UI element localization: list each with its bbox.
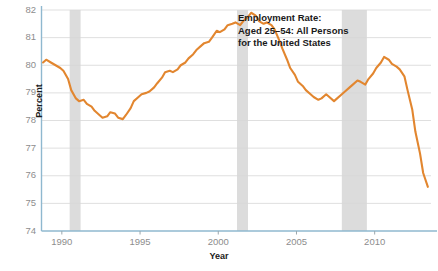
x-tick-label-1990: 1990	[42, 236, 82, 247]
y-tick-label-76: 76	[12, 169, 36, 180]
chart-title-line-2: Aged 25–54: All Persons	[238, 25, 349, 38]
y-tick-label-77: 77	[12, 142, 36, 153]
gridlines	[42, 10, 432, 203]
y-tick-label-79: 79	[12, 86, 36, 97]
chart-title-line-3: for the United States	[238, 37, 349, 50]
chart-title: Employment Rate: Aged 25–54: All Persons…	[238, 12, 349, 50]
y-tick-label-75: 75	[12, 197, 36, 208]
data-line-series	[43, 13, 428, 187]
employment-rate-chart: 828180797877767574 19901995200020052010 …	[0, 0, 438, 271]
y-tick-label-74: 74	[12, 225, 36, 236]
x-tick-label-1995: 1995	[120, 236, 160, 247]
y-tick-label-81: 81	[12, 31, 36, 42]
y-axis-title: Percent	[34, 61, 44, 141]
chart-title-line-1: Employment Rate:	[238, 12, 349, 25]
y-tick-label-78: 78	[12, 114, 36, 125]
x-tick-label-2005: 2005	[276, 236, 316, 247]
x-tick-label-2000: 2000	[198, 236, 238, 247]
x-tick-label-2010: 2010	[355, 236, 395, 247]
y-tick-label-80: 80	[12, 59, 36, 70]
x-axis-title: Year	[0, 251, 438, 261]
y-tick-label-82: 82	[12, 4, 36, 15]
chart-canvas	[0, 0, 438, 271]
